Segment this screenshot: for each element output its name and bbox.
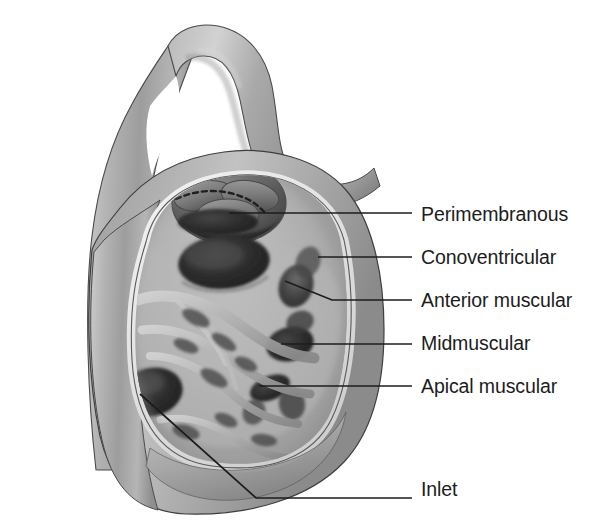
label-perimembranous: Perimembranous (421, 205, 568, 225)
figure-caption (0, 517, 609, 531)
label-anterior-muscular: Anterior muscular (421, 291, 572, 311)
label-midmuscular: Midmuscular (421, 334, 530, 354)
label-conoventricular: Conoventricular (421, 248, 556, 268)
label-inlet: Inlet (421, 480, 457, 500)
label-apical-muscular: Apical muscular (421, 377, 557, 397)
